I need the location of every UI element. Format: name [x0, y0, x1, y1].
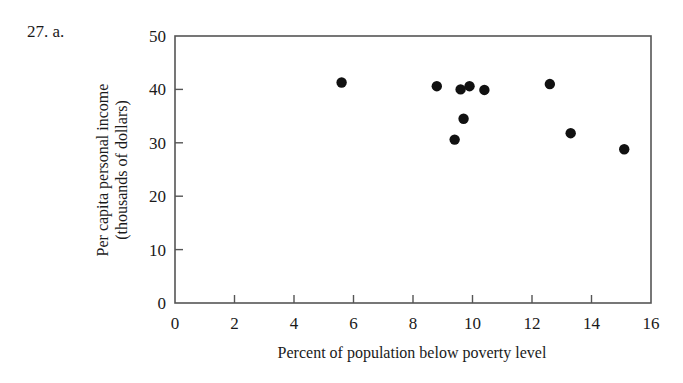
x-axis-title: Percent of population below poverty leve…: [278, 344, 547, 362]
x-tick-label: 10: [464, 314, 481, 333]
data-point: [455, 84, 465, 94]
x-tick-label: 6: [349, 314, 358, 333]
x-tick-label: 4: [290, 314, 299, 333]
y-axis-title-line1: Per capita personal income: [94, 84, 112, 257]
data-point: [545, 79, 555, 89]
x-tick-label: 16: [643, 314, 660, 333]
data-point: [464, 81, 474, 91]
data-points: [336, 77, 629, 154]
y-tick-label: 30: [149, 134, 166, 153]
x-tick-label: 8: [409, 314, 418, 333]
x-tick-label: 14: [583, 314, 601, 333]
plot-border: [175, 36, 651, 303]
data-point: [565, 128, 575, 138]
data-point: [619, 144, 629, 154]
data-point: [458, 114, 468, 124]
y-tick-label: 40: [149, 80, 166, 99]
data-point: [449, 134, 459, 144]
data-point: [336, 77, 346, 87]
y-tick-label: 50: [149, 27, 166, 46]
x-tick-label: 12: [524, 314, 541, 333]
y-tick-label: 20: [149, 187, 166, 206]
y-axis-title-line2: (thousands of dollars): [113, 100, 131, 240]
x-tick-label: 2: [230, 314, 239, 333]
x-axis: 0246810121416: [171, 295, 660, 333]
data-point: [432, 81, 442, 91]
x-tick-label: 0: [171, 314, 180, 333]
y-axis: 01020304050: [149, 27, 183, 313]
y-tick-label: 10: [149, 241, 166, 260]
data-point: [479, 85, 489, 95]
plot-frame: [175, 36, 651, 303]
y-tick-label: 0: [158, 294, 167, 313]
scatter-chart: 01020304050 0246810121416 Percent of pop…: [0, 0, 683, 383]
